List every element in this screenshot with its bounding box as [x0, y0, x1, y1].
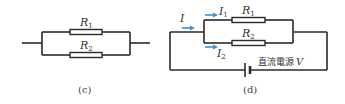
- label-r1: R1: [241, 4, 255, 18]
- circuit-diagrams: R1 R2 (c) R1 R2 直流電源V I: [0, 0, 345, 104]
- label-r1: R1: [79, 16, 93, 30]
- label-i: I: [179, 12, 185, 25]
- caption-c: (c): [78, 84, 92, 95]
- circuit-c: R1 R2 (c): [22, 16, 150, 95]
- dc-source-icon: [245, 63, 250, 77]
- label-i1: I1: [218, 5, 228, 19]
- resistor-r2: [70, 53, 102, 58]
- arrow-i-icon: [182, 26, 195, 31]
- arrow-i1-icon: [205, 13, 218, 18]
- source-label: 直流電源V: [258, 56, 305, 67]
- resistor-r1: [232, 18, 265, 23]
- label-r2: R2: [241, 27, 255, 41]
- label-i2: I2: [216, 47, 226, 61]
- label-r2: R2: [79, 39, 93, 53]
- resistor-r2: [232, 41, 265, 46]
- resistor-r1: [70, 30, 102, 35]
- caption-d: (d): [243, 84, 257, 95]
- circuit-d: R1 R2 直流電源V I I1 I2 (d): [170, 4, 327, 95]
